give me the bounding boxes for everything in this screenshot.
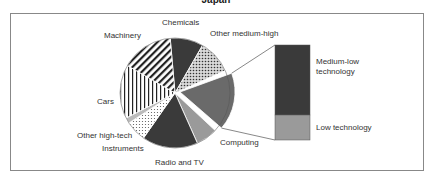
label-machinery: Machinery	[104, 31, 141, 40]
bar-low-technology	[275, 115, 310, 140]
bar-medium-low-technology	[275, 45, 310, 115]
label-chemicals: Chemicals	[162, 18, 199, 27]
label-other-medium-high: Other medium-high	[210, 29, 278, 38]
label-cars: Cars	[97, 97, 114, 106]
label-computing: Computing	[220, 138, 259, 147]
label-radio-tv: Radio and TV	[155, 158, 204, 167]
pie-slices	[120, 38, 235, 148]
label-other-high-tech: Other high-tech	[77, 131, 132, 140]
pie-chart: Chemicals Other medium-high Machinery Ca…	[0, 0, 432, 181]
label-low-technology: Low technology	[316, 123, 372, 132]
label-instruments: Instruments	[102, 144, 144, 153]
label-medium-low-line1: Medium-low	[316, 57, 359, 66]
connector-top	[232, 45, 275, 73]
label-medium-low-line2: technology	[316, 67, 355, 76]
